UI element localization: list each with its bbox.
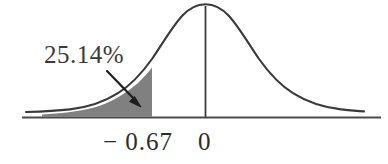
normal-curve-graphic: [0, 0, 388, 164]
x-axis-tick-label-z: − 0.67: [103, 129, 173, 154]
normal-distribution-figure: 25.14% − 0.67 0: [0, 0, 388, 164]
shaded-area-percent-label: 25.14%: [44, 42, 124, 67]
x-axis-tick-label-mean: 0: [198, 129, 211, 154]
shaded-tail-area: [42, 68, 152, 117]
